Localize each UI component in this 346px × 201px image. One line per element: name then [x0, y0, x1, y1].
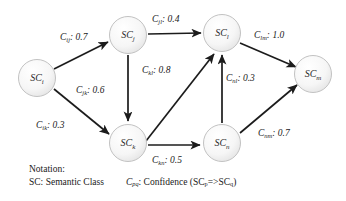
node-sc-j[interactable]: SCj [110, 17, 147, 54]
confidence-arrow: =>SC [208, 177, 230, 187]
edge-label-jk: Cjk: 0.6 [76, 85, 105, 96]
edge-label-group: Cij: 0.7 Cik: 0.3 Cjl: 0.4 Cjk: 0.6 Ckl:… [36, 14, 291, 166]
edge-label-lm: Clm: 1.0 [254, 30, 285, 41]
figure-canvas: Cij: 0.7 Cik: 0.3 Cjl: 0.4 Cjk: 0.6 Ckl:… [0, 0, 346, 201]
node-sc-m[interactable]: SCm [295, 56, 332, 93]
node-sc-k[interactable]: SCk [110, 125, 147, 162]
edge-label-nl: Cnl: 0.3 [226, 73, 255, 84]
edge-n-m [240, 85, 297, 133]
node-sc-n[interactable]: SCn [204, 125, 241, 162]
edge-label-jl: Cjl: 0.4 [152, 14, 180, 25]
edge-l-m [240, 43, 296, 67]
notation-definitions: SC: Semantic Class Cpq: Confidence (SCp=… [29, 176, 236, 190]
edge-label-nm: Cnm: 0.7 [258, 128, 291, 139]
edge-i-j [54, 42, 108, 69]
edge-label-ik: Cik: 0.3 [36, 120, 65, 131]
notation-confidence-definition: Cpq: Confidence (SCp=>SCq) [126, 176, 236, 190]
notation-sc-definition: SC: Semantic Class [29, 176, 104, 189]
edge-j-l [148, 33, 201, 34]
node-sc-i[interactable]: SCi [19, 60, 56, 97]
node-sc-l[interactable]: SCl [204, 15, 241, 52]
edge-label-ij: Cij: 0.7 [60, 32, 89, 43]
confidence-text: : Confidence (SC [139, 177, 205, 187]
confidence-close-paren: ) [233, 177, 236, 187]
edge-label-kl: Ckl: 0.8 [142, 65, 171, 76]
notation-heading: Notation: [29, 163, 236, 176]
notation-legend: Notation: SC: Semantic Class Cpq: Confid… [29, 163, 236, 190]
